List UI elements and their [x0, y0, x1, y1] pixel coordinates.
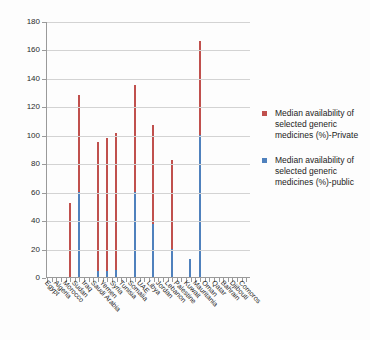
bar-group: [158, 21, 167, 277]
bar-group: [205, 21, 214, 277]
y-axis-tick-label: 160: [14, 46, 40, 54]
bar-series-layer: [47, 22, 250, 277]
bar-group: [140, 21, 149, 277]
y-axis-tick-mark: [42, 50, 46, 51]
y-axis-tick-label: 0: [14, 274, 40, 282]
bar-group: [131, 21, 140, 277]
gridline: [47, 221, 250, 222]
bar-group: [214, 21, 223, 277]
bar-group: [223, 21, 232, 277]
y-axis-tick-mark: [42, 193, 46, 194]
bar-group: [66, 21, 75, 277]
bar-private: [106, 138, 108, 277]
y-axis-tick-mark: [42, 221, 46, 222]
bar-group: [168, 21, 177, 277]
y-axis-tick-mark: [42, 250, 46, 251]
y-axis-tick-mark: [42, 22, 46, 23]
bar-group: [242, 21, 251, 277]
y-axis-tick-mark: [42, 164, 46, 165]
bar-group: [196, 21, 205, 277]
bar-group: [186, 21, 195, 277]
bar-public: [106, 271, 108, 277]
y-axis-tick-label: 120: [14, 103, 40, 111]
bar-public: [115, 270, 117, 277]
gridline: [47, 136, 250, 137]
bar-chart: 020406080100120140160180 EgyptAlgeriaMor…: [0, 0, 370, 340]
y-axis-tick-label: 80: [14, 160, 40, 168]
bar-group: [103, 21, 112, 277]
bar-public: [189, 259, 191, 277]
bar-group: [121, 21, 130, 277]
plot-area: [46, 22, 250, 278]
y-axis-tick-label: 40: [14, 217, 40, 225]
bar-private: [69, 203, 71, 277]
bar-group: [112, 21, 121, 277]
bar-group: [94, 21, 103, 277]
gridline: [47, 164, 250, 165]
bar-public: [171, 249, 173, 277]
bar-public: [199, 135, 201, 277]
y-axis-tick-mark: [42, 79, 46, 80]
bar-group: [177, 21, 186, 277]
bar-public: [78, 192, 80, 277]
y-axis-tick-mark: [42, 107, 46, 108]
x-axis-labels: EgyptAlgeriaMoroccoSudanIraqSaudi Arabia…: [46, 279, 276, 339]
gridline: [47, 250, 250, 251]
bar-public: [152, 224, 154, 277]
legend-item-public: Median availability of selected generic …: [262, 155, 366, 188]
bar-group: [84, 21, 93, 277]
public-swatch-icon: [262, 158, 267, 163]
legend-label-private: Median availability of selected generic …: [275, 108, 366, 141]
y-axis-tick-label: 60: [14, 189, 40, 197]
gridline: [47, 79, 250, 80]
y-axis-tick-label: 100: [14, 132, 40, 140]
y-axis-tick-label: 20: [14, 246, 40, 254]
gridline: [47, 22, 250, 23]
bar-public: [97, 271, 99, 277]
bar-group: [56, 21, 65, 277]
private-swatch-icon: [262, 111, 267, 116]
y-axis-tick-label: 140: [14, 75, 40, 83]
bar-group: [233, 21, 242, 277]
bar-group: [75, 21, 84, 277]
y-axis-tick-label: 180: [14, 18, 40, 26]
legend-label-public: Median availability of selected generic …: [275, 155, 366, 188]
bar-private: [97, 142, 99, 277]
gridline: [47, 193, 250, 194]
bar-group: [47, 21, 56, 277]
chart-legend: Median availability of selected generic …: [262, 108, 366, 202]
bar-group: [149, 21, 158, 277]
y-axis-tick-mark: [42, 136, 46, 137]
bar-private: [115, 133, 117, 277]
legend-item-private: Median availability of selected generic …: [262, 108, 366, 141]
gridline: [47, 107, 250, 108]
gridline: [47, 50, 250, 51]
bar-public: [134, 192, 136, 277]
